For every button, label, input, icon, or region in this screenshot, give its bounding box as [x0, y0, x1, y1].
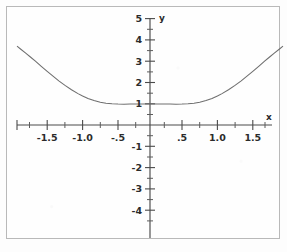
y-tick-label-2: 2: [135, 77, 142, 88]
y-tick-label-1: 1: [135, 98, 142, 109]
y-tick-label-5: 5: [135, 13, 142, 24]
x-tick-label-neg-1-5: -1.5: [37, 132, 58, 143]
y-tick-label-4: 4: [135, 34, 142, 45]
y-axis-label: y: [159, 13, 165, 23]
y-tick-label-neg-4: -4: [131, 205, 142, 216]
x-tick-label-neg-1-0: -1.0: [72, 132, 93, 143]
x-tick-label-1-0: 1.0: [209, 132, 226, 143]
x-axis-label: x: [266, 112, 272, 122]
x-tick-label-1-5: 1.5: [244, 132, 261, 143]
y-tick-label-neg-2: -2: [131, 162, 142, 173]
x-tick-label-neg-0-5: -.5: [111, 132, 125, 143]
y-tick-label-3: 3: [135, 56, 142, 67]
screenshot-root: -1.5 -1.0 -.5 .5 1.0 1.5 5 4 3 2 1 -1 -2…: [0, 0, 287, 252]
y-tick-label-neg-3: -3: [131, 183, 142, 194]
x-tick-label-0-5: .5: [177, 132, 187, 143]
coordinate-plot: -1.5 -1.0 -.5 .5 1.0 1.5 5 4 3 2 1 -1 -2…: [0, 0, 287, 252]
graph-figure: -1.5 -1.0 -.5 .5 1.0 1.5 5 4 3 2 1 -1 -2…: [0, 0, 287, 252]
y-tick-label-neg-1: -1: [131, 141, 142, 152]
